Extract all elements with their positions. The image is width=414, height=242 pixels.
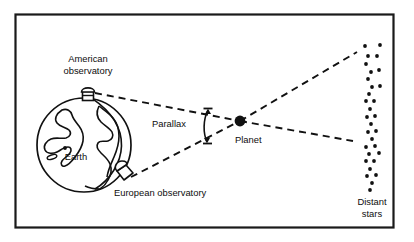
star-dot [372, 99, 376, 103]
star-dot [367, 152, 371, 156]
star-dot [377, 151, 381, 155]
star-dot [373, 114, 377, 118]
parallax-label: Parallax [152, 118, 186, 129]
star-dot [366, 54, 370, 58]
earth-globe: Earth [37, 98, 131, 192]
star-dot [364, 159, 368, 163]
distant-stars-label-line1: Distant [357, 196, 387, 207]
star-dot [378, 84, 382, 88]
star-dot [368, 188, 372, 192]
earth-island-dot [63, 146, 67, 150]
american-observatory-dome [82, 88, 95, 92]
planet-label: Planet [235, 134, 262, 145]
star-dot [368, 107, 372, 111]
star-dot [373, 144, 377, 148]
diagram-canvas: Earth [0, 0, 414, 242]
star-dot [369, 70, 373, 74]
star-dot [374, 173, 378, 177]
star-dot [368, 167, 372, 171]
star-dot [364, 145, 368, 149]
parallax-diagram-figure: Earth [0, 0, 414, 242]
star-dot [369, 122, 373, 126]
star-dot [370, 85, 374, 89]
star-dot [366, 130, 370, 134]
planet-dot [235, 116, 246, 127]
distant-stars-label-line2: stars [362, 208, 383, 219]
star-dot [367, 92, 371, 96]
star-dot [378, 43, 382, 47]
star-dot [370, 181, 374, 185]
star-dot [364, 99, 368, 103]
american-observatory-label-line1: American [68, 53, 108, 64]
star-dot [375, 54, 379, 58]
star-dot [370, 137, 374, 141]
european-observatory-label: European observatory [114, 187, 207, 198]
star-dot [365, 174, 369, 178]
star-dot [377, 68, 381, 72]
star-dot [374, 129, 378, 133]
star-dot [366, 77, 370, 81]
star-dot [365, 115, 369, 119]
earth-label: Earth [65, 151, 87, 162]
star-dot [372, 159, 376, 163]
american-observatory-label-line2: observatory [64, 65, 113, 76]
american-observatory [82, 88, 95, 101]
star-dot [364, 62, 368, 66]
star-dot [363, 44, 367, 48]
